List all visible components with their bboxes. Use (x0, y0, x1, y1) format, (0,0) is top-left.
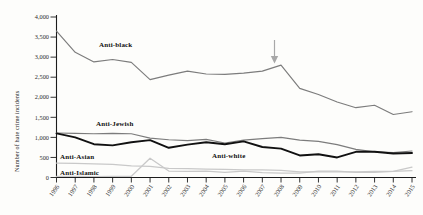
y-axis-title-text: Number of hate crime incidents (13, 90, 20, 172)
x-tick-label: 2002 (160, 183, 173, 197)
series-label-anti-asian: Anti-Asian (60, 153, 94, 161)
y-tick-label: 0 (46, 174, 49, 181)
x-tick-label: 2005 (216, 183, 229, 197)
y-tick-label: 3,000 (35, 53, 49, 60)
x-tick-label: 2006 (235, 183, 248, 197)
chart-canvas: Number of hate crime incidents 4,0003,50… (0, 0, 423, 215)
x-tick-label: 2003 (178, 183, 191, 197)
x-tick-label: 2009 (291, 183, 304, 197)
x-tick-label: 2007 (253, 182, 267, 197)
arrow-2008-annotation (271, 40, 278, 64)
x-axis: 1996199719981999200020012002200320042005… (47, 178, 416, 198)
series-label-anti-black: Anti-black (99, 41, 132, 49)
y-tick-label: 2,500 (35, 73, 49, 80)
hate-crime-line-chart: Number of hate crime incidents 4,0003,50… (0, 0, 423, 215)
x-tick-label: 1997 (66, 182, 80, 197)
x-tick-label: 2014 (384, 182, 398, 197)
y-tick-label: 500 (40, 154, 49, 161)
x-tick-label: 2011 (328, 183, 341, 197)
x-tick-label: 2010 (309, 183, 322, 197)
y-tick-label: 3,500 (35, 33, 49, 40)
x-tick-label: 2013 (366, 183, 379, 197)
x-tick-label: 1998 (85, 183, 98, 197)
y-tick-label: 4,000 (35, 13, 49, 20)
y-tick-label: 1,500 (35, 114, 49, 121)
x-tick-label: 2004 (197, 182, 211, 197)
x-tick-label: 2012 (347, 183, 360, 197)
y-axis-title: Number of hate crime incidents (13, 90, 20, 172)
series-labels: Anti-blackAnti-JewishAnti-whiteAnti-Asia… (60, 41, 245, 177)
series-label-anti-islamic: Anti-Islamic (60, 169, 99, 177)
series-label-anti-white: Anti-white (212, 152, 245, 160)
y-tick-label: 2,000 (35, 93, 49, 100)
x-tick-label: 2000 (122, 183, 135, 197)
x-tick-label: 1999 (104, 183, 117, 197)
series-line-anti-islamic (57, 158, 413, 176)
x-tick-label: 2015 (403, 183, 416, 197)
x-tick-label: 2008 (272, 183, 285, 197)
y-tick-label: 1,000 (35, 134, 49, 141)
series-line-anti-asian (57, 163, 413, 172)
x-tick-label: 1996 (47, 183, 60, 197)
x-tick-label: 2001 (141, 183, 154, 197)
y-axis: 4,0003,5003,0002,5002,0001,5001,0005000 (35, 13, 57, 181)
series-label-anti-jewish: Anti-Jewish (96, 120, 133, 128)
